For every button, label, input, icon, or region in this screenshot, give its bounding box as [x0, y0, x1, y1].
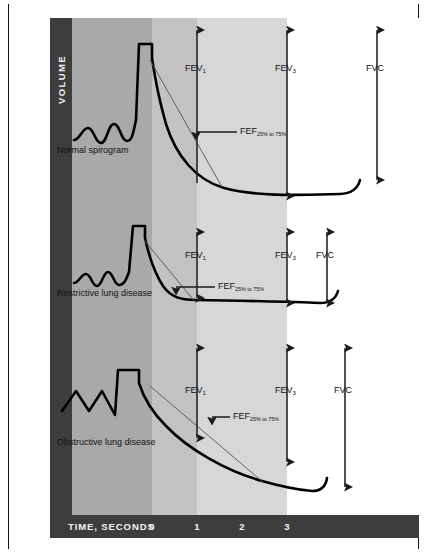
- x-axis-label: TIME, SECONDS: [68, 521, 155, 532]
- panel-label-normal: Normal spirogram: [57, 145, 129, 155]
- time-band-1-to-3: [197, 18, 287, 515]
- fvc-label-restrictive: FVC: [316, 250, 334, 260]
- fev3-label-obstructive: FEV3: [275, 385, 296, 395]
- panel-label-obstructive: Obstructive lung disease: [57, 437, 156, 447]
- x-tick-1: 1: [194, 521, 199, 532]
- fvc-label-obstructive: FVC: [334, 385, 352, 395]
- time-band-post-3: [287, 18, 419, 515]
- time-axis-bar: TIME, SECONDS 0 1 2 3: [50, 515, 419, 538]
- y-axis-label: VOLUME: [56, 30, 67, 130]
- panel-label-restrictive: Restrictive lung disease: [57, 288, 152, 298]
- fev3-label-normal: FEV3: [275, 63, 296, 73]
- x-tick-3: 3: [284, 521, 289, 532]
- fev1-label-obstructive: FEV1: [185, 385, 206, 395]
- spirometry-figure: VOLUME: [0, 0, 427, 553]
- fev1-label-normal: FEV1: [185, 63, 206, 73]
- time-band-0-to-1: [152, 18, 197, 515]
- x-tick-2: 2: [239, 521, 244, 532]
- x-tick-0: 0: [149, 521, 154, 532]
- fef-label-obstructive: FEF25% to 75%: [233, 411, 279, 421]
- fev1-label-restrictive: FEV1: [185, 250, 206, 260]
- fef-label-normal: FEF25% to 75%: [240, 126, 286, 136]
- fef-label-restrictive: FEF25% to 75%: [218, 281, 264, 291]
- fev3-label-restrictive: FEV3: [275, 250, 296, 260]
- fvc-label-normal: FVC: [366, 63, 384, 73]
